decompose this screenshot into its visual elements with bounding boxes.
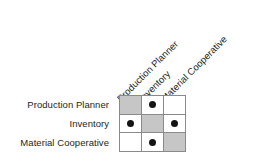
matrix-cell[interactable] [142, 96, 164, 115]
matrix-cell[interactable] [164, 133, 186, 152]
matrix-cell[interactable] [120, 96, 142, 115]
matrix-cell[interactable] [164, 115, 186, 134]
row-label-2: Material Cooperative [0, 133, 113, 152]
matrix-cell[interactable] [164, 96, 186, 115]
column-header-group: Production Planner Inventory Material Co… [0, 0, 257, 95]
row-label-1: Inventory [0, 114, 113, 133]
dependency-dot-icon [149, 101, 156, 108]
row-label-group: Production Planner Inventory Material Co… [0, 95, 113, 152]
dependency-dot-icon [149, 139, 156, 146]
matrix-grid [119, 95, 186, 152]
dependency-dot-icon [127, 120, 134, 127]
row-label-0: Production Planner [0, 95, 113, 114]
matrix-cell[interactable] [120, 115, 142, 134]
dependency-dot-icon [171, 120, 178, 127]
matrix-cell[interactable] [142, 115, 164, 134]
dsm-figure: Production Planner Inventory Material Co… [0, 0, 257, 163]
matrix-cell[interactable] [120, 133, 142, 152]
matrix-cell[interactable] [142, 133, 164, 152]
